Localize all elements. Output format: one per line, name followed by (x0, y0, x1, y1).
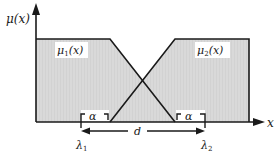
mu2-label: μ2(x) (197, 44, 223, 58)
mu1-label: μ1(x) (57, 44, 83, 58)
x-axis-arrow-icon (253, 118, 265, 126)
alpha-left-label: α (89, 110, 97, 123)
alpha-right-label: α (185, 110, 193, 123)
lambda1-label: λ1 (75, 139, 87, 153)
y-axis-label: μ(x) (6, 12, 30, 26)
distance-label: d (134, 125, 141, 138)
distance-arrow-left-head-icon (81, 128, 90, 135)
distance-arrow-right-head-icon (196, 128, 205, 135)
membership-function-diagram: μ(x) x μ1(x) μ2(x) α α d λ1 λ2 (0, 0, 274, 156)
y-axis-arrow-icon (32, 3, 40, 15)
x-axis-label: x (267, 116, 274, 130)
lambda2-label: λ2 (200, 139, 212, 153)
